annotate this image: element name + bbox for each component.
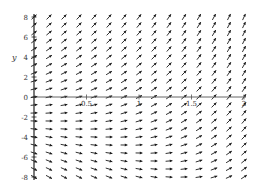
slope-arrow: [151, 144, 158, 147]
slope-arrow: [46, 104, 53, 107]
slope-arrow: [211, 151, 217, 154]
slope-arrow: [61, 112, 68, 115]
slope-arrow: [197, 14, 200, 20]
slope-arrow: [106, 152, 113, 155]
slope-arrow: [152, 38, 157, 43]
slope-arrow: [167, 30, 171, 35]
slope-arrow: [106, 63, 112, 67]
slope-arrow: [106, 111, 113, 114]
slope-arrow: [181, 111, 187, 115]
slope-arrow: [167, 46, 171, 51]
slope-arrow: [151, 168, 158, 171]
slope-arrow: [46, 71, 52, 74]
slope-arrow: [243, 22, 246, 28]
slope-arrow: [76, 55, 82, 59]
slope-arrow: [136, 55, 141, 60]
slope-arrow: [212, 62, 216, 67]
slope-arrow: [91, 71, 97, 74]
slope-arrow: [137, 30, 142, 35]
y-tick-label: 4: [24, 54, 29, 62]
slope-arrow: [242, 62, 245, 68]
slope-arrow: [91, 63, 97, 67]
slope-arrow: [166, 168, 173, 171]
slope-arrow: [181, 143, 187, 146]
y-axis-label: y: [11, 53, 17, 62]
slope-arrow: [151, 63, 156, 68]
slope-arrow: [243, 14, 246, 20]
slope-arrow: [62, 23, 67, 28]
slope-arrow: [46, 39, 51, 43]
slope-arrow: [46, 112, 53, 115]
slope-arrow: [166, 143, 173, 146]
y-tick-label: 8: [24, 14, 28, 22]
slope-arrow: [76, 47, 81, 51]
slope-arrow: [241, 167, 247, 171]
slope-arrow: [241, 175, 247, 179]
slope-arrow: [46, 160, 52, 163]
slope-arrow: [137, 22, 141, 27]
slope-arrow: [107, 39, 112, 44]
slope-arrow: [61, 63, 67, 66]
slope-arrow: [91, 111, 98, 114]
slope-arrow: [196, 127, 202, 131]
slope-arrow: [61, 120, 68, 123]
slope-arrow: [181, 151, 188, 154]
slope-arrow: [227, 111, 232, 116]
slope-arrow: [182, 62, 187, 67]
slope-arrow: [46, 128, 53, 131]
slope-arrow: [241, 159, 246, 163]
slope-arrow: [242, 86, 246, 92]
slope-arrow: [152, 47, 157, 52]
slope-arrow: [136, 79, 142, 83]
slope-arrow: [46, 175, 52, 178]
slope-arrow: [121, 119, 128, 122]
slope-arrow: [61, 103, 68, 106]
slope-arrow: [121, 136, 128, 139]
slope-arrow: [46, 31, 51, 35]
slope-arrow: [46, 87, 53, 90]
slope-arrow: [107, 14, 111, 19]
slope-arrow: [61, 31, 66, 35]
slope-arrow: [76, 144, 83, 147]
slope-arrow: [196, 159, 202, 162]
slope-arrow: [182, 79, 187, 84]
slope-arrow: [61, 47, 67, 51]
slope-arrow: [151, 119, 157, 122]
slope-arrow: [61, 55, 67, 59]
slope-arrow: [151, 79, 156, 83]
slope-arrow: [91, 47, 96, 51]
slope-arrow: [61, 160, 67, 163]
slope-arrow: [181, 176, 188, 179]
slope-arrow: [212, 70, 216, 75]
slope-arrow: [106, 55, 111, 59]
slope-arrow: [226, 127, 231, 132]
slope-arrow: [227, 54, 231, 60]
slope-arrow: [136, 168, 143, 171]
slope-arrow: [166, 103, 172, 107]
slope-arrow: [136, 127, 143, 130]
slope-arrow: [76, 152, 83, 155]
slope-arrow: [106, 160, 113, 163]
slope-arrow: [212, 14, 215, 20]
slope-arrow: [106, 103, 112, 106]
slope-arrow: [121, 160, 128, 163]
slope-arrow: [121, 152, 128, 155]
slope-arrow: [121, 128, 128, 131]
slope-arrow: [211, 167, 217, 170]
slope-arrow: [242, 38, 245, 44]
slope-arrow: [166, 127, 172, 130]
slope-arrow: [226, 175, 232, 178]
slope-arrow: [136, 87, 142, 90]
slope-arrow: [122, 14, 126, 19]
slope-arrow: [196, 175, 203, 178]
slope-arrow: [182, 14, 186, 20]
slope-arrow: [242, 118, 246, 123]
slope-arrow: [152, 22, 156, 27]
slope-arrow: [166, 87, 171, 91]
slope-arrow: [166, 135, 172, 138]
y-tick-label: 0: [24, 94, 28, 102]
slope-arrow: [106, 119, 113, 122]
slope-arrow: [77, 15, 82, 20]
slope-arrow: [106, 144, 113, 147]
slope-arrow: [76, 39, 81, 43]
